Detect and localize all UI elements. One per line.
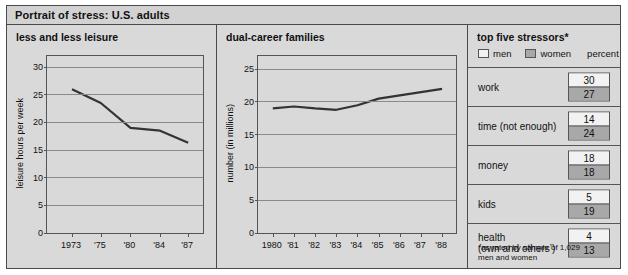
stressor-value-men: 5 — [569, 191, 609, 204]
x-axis-tick-mark — [72, 233, 73, 237]
y-axis-tick-mark — [44, 94, 47, 95]
y-axis-tick-mark — [44, 177, 47, 178]
gridline — [258, 134, 456, 135]
y-axis-tick-label: 15 — [33, 145, 43, 155]
y-axis-tick-mark — [255, 101, 258, 102]
x-axis-tick-label: '75 — [94, 240, 106, 250]
y-axis-tick-label: 5 — [38, 200, 43, 210]
chart-plot-leisure: 051015202530 — [46, 55, 204, 234]
y-axis-tick-label: 10 — [244, 162, 254, 172]
y-axis-tick-label: 5 — [249, 195, 254, 205]
x-axis-tick-mark — [442, 233, 443, 237]
footnote-line-1: *as rated by sample of 1,029 — [478, 243, 614, 253]
gridline — [47, 122, 203, 123]
chart-plot-dual: 0510152025 — [257, 55, 457, 234]
stressor-label-line-1: time (not enough) — [478, 121, 556, 132]
y-axis-tick-mark — [44, 150, 47, 151]
x-axis-tick-mark — [315, 233, 316, 237]
stressors-title: top five stressors* — [477, 31, 569, 43]
x-axis-tick-label: '85 — [372, 240, 384, 250]
legend-label-men: men — [493, 48, 511, 59]
y-axis-tick-label: 20 — [244, 97, 254, 107]
x-axis-tick-label: '80 — [124, 240, 136, 250]
gridline — [258, 200, 456, 201]
x-axis-tick-label: 1980 — [262, 240, 282, 250]
y-axis-tick-label: 25 — [244, 64, 254, 74]
y-axis-tick-mark — [44, 122, 47, 123]
gridline — [47, 67, 203, 68]
stressor-label-line-1: work — [478, 82, 499, 93]
y-axis-tick-label: 0 — [249, 228, 254, 238]
stressor-value-women: 18 — [569, 165, 609, 179]
y-axis-tick-label: 30 — [33, 62, 43, 72]
x-axis-tick-label: '84 — [351, 240, 363, 250]
x-axis-tick-mark — [130, 233, 131, 237]
x-axis-tick-mark — [379, 233, 380, 237]
x-axis-tick-mark — [273, 233, 274, 237]
stressor-value-men: 14 — [569, 113, 609, 126]
y-axis-tick-mark — [44, 205, 47, 206]
infographic-root: Portrait of stress: U.S. adults less and… — [6, 5, 621, 269]
x-axis-tick-label: '87 — [181, 240, 193, 250]
x-axis-tick-mark — [400, 233, 401, 237]
x-axis-tick-mark — [101, 233, 102, 237]
x-axis-tick-mark — [160, 233, 161, 237]
y-axis-tick-mark — [255, 69, 258, 70]
gridline — [47, 94, 203, 95]
x-axis-tick-label: '87 — [414, 240, 426, 250]
title-bar: Portrait of stress: U.S. adults — [7, 6, 620, 25]
x-axis-tick-mark — [294, 233, 295, 237]
stressor-value-boxes: 1818 — [568, 151, 610, 180]
panel-less-and-less-leisure: less and less leisure leisure hours per … — [7, 25, 217, 268]
y-axis-tick-mark — [255, 167, 258, 168]
stressors-rows: work3027time (not enough)1424money1818ki… — [468, 67, 620, 262]
stressor-label: time (not enough) — [478, 121, 556, 132]
x-axis-tick-label: 1973 — [61, 240, 81, 250]
stressor-value-women: 24 — [569, 126, 609, 140]
stressor-label-line-1: kids — [478, 199, 496, 210]
gridline — [258, 69, 456, 70]
y-axis-tick-mark — [255, 200, 258, 201]
stressor-value-boxes: 3027 — [568, 73, 610, 102]
stressor-label-line-1: money — [478, 160, 508, 171]
y-axis-tick-mark — [44, 67, 47, 68]
stressor-label: money — [478, 160, 508, 171]
chart-title-dual: dual-career families — [226, 31, 325, 43]
y-axis-tick-mark — [255, 233, 258, 234]
legend-label-percent: percent — [587, 48, 619, 59]
y-axis-title-leisure: leisure hours per week — [15, 98, 25, 189]
y-axis-tick-mark — [255, 134, 258, 135]
stressor-row: time (not enough)1424 — [468, 106, 620, 145]
stressor-value-women: 19 — [569, 204, 609, 218]
stressor-value-boxes: 1424 — [568, 112, 610, 141]
legend-label-women: women — [540, 48, 571, 59]
page-title: Portrait of stress: U.S. adults — [15, 9, 170, 21]
x-axis-tick-label: '81 — [287, 240, 299, 250]
stressor-value-women: 27 — [569, 87, 609, 101]
gridline — [47, 205, 203, 206]
y-axis-title-dual: number (in millions) — [225, 104, 235, 183]
y-axis-tick-label: 15 — [244, 130, 254, 140]
panel-top-five-stressors: top five stressors* men women percent wo… — [468, 25, 620, 268]
x-axis-tick-mark — [421, 233, 422, 237]
panel-dual-career-families: dual-career families number (in millions… — [217, 25, 468, 268]
gridline — [258, 167, 456, 168]
line-series-leisure — [47, 56, 203, 233]
y-axis-tick-label: 10 — [33, 173, 43, 183]
x-axis-tick-label: '86 — [393, 240, 405, 250]
stressor-row: kids519 — [468, 184, 620, 223]
stressors-header: top five stressors* men women percent — [468, 25, 620, 67]
gridline — [47, 150, 203, 151]
stressor-label: work — [478, 82, 499, 93]
line-series-dual — [258, 56, 456, 233]
x-axis-tick-label: '84 — [153, 240, 165, 250]
y-axis-tick-label: 0 — [38, 228, 43, 238]
gridline — [258, 101, 456, 102]
x-axis-tick-mark — [336, 233, 337, 237]
gridline — [47, 177, 203, 178]
chart-title-leisure: less and less leisure — [16, 31, 118, 43]
stressor-value-men: 4 — [569, 230, 609, 243]
y-axis-tick-mark — [44, 233, 47, 234]
stressor-row: money1818 — [468, 145, 620, 184]
stressors-legend: men women percent — [478, 48, 619, 59]
